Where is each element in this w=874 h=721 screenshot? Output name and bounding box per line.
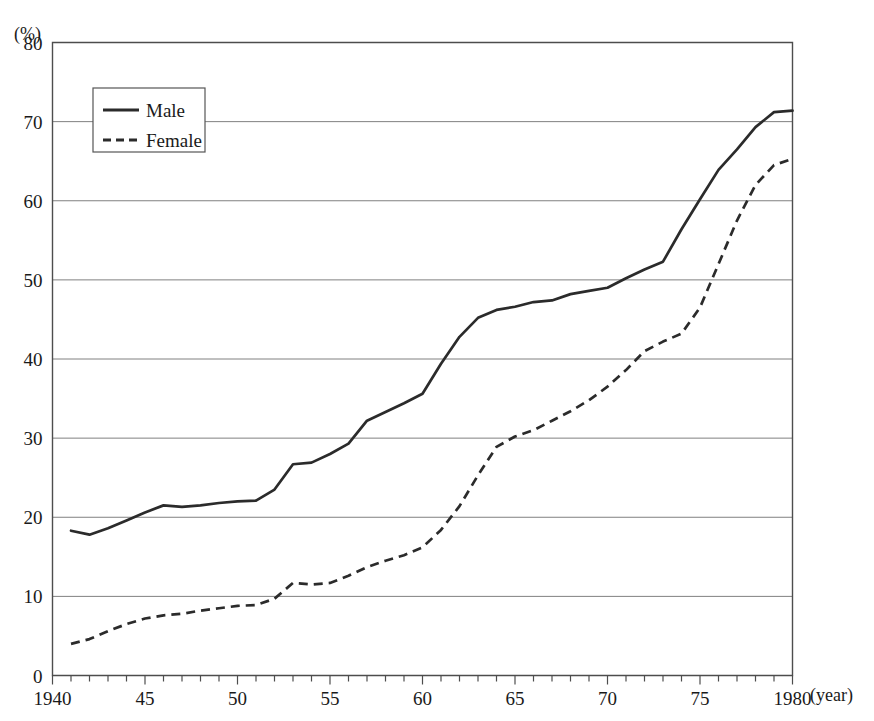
x-axis-ticks: [53, 676, 793, 685]
y-tick-label-20: 20: [24, 507, 43, 528]
y-tick-label-40: 40: [24, 349, 43, 370]
y-tick-label-10: 10: [24, 586, 43, 607]
y-tick-label-70: 70: [24, 112, 43, 133]
x-tick-label-1955: 55: [321, 688, 340, 709]
chart-canvas: 01020304050607080 1940455055606570751980…: [0, 0, 874, 721]
legend-label-female: Female: [146, 130, 202, 151]
series-line-male: [71, 111, 793, 535]
x-tick-label-1940: 1940: [34, 688, 72, 709]
y-tick-label-30: 30: [24, 428, 43, 449]
x-axis-unit-label: (year): [810, 685, 853, 706]
legend-label-male: Male: [146, 100, 185, 121]
x-tick-label-1960: 60: [413, 688, 432, 709]
x-tick-label-1980: 1980: [774, 688, 812, 709]
y-axis-tick-labels: 01020304050607080: [24, 33, 43, 687]
gridlines: [53, 122, 793, 597]
x-tick-label-1965: 65: [506, 688, 525, 709]
x-tick-label-1975: 75: [691, 688, 710, 709]
y-tick-label-50: 50: [24, 270, 43, 291]
y-tick-label-0: 0: [33, 666, 43, 687]
x-tick-label-1950: 50: [228, 688, 247, 709]
chart-legend: MaleFemale: [93, 88, 205, 152]
y-tick-label-60: 60: [24, 191, 43, 212]
series-line-female: [71, 159, 793, 644]
x-tick-label-1945: 45: [136, 688, 155, 709]
line-chart: 01020304050607080 1940455055606570751980…: [0, 0, 874, 721]
x-axis-tick-labels: 1940455055606570751980: [34, 688, 812, 709]
y-axis-unit-label: (%): [14, 24, 41, 45]
x-tick-label-1970: 70: [598, 688, 617, 709]
data-series: [71, 111, 793, 644]
